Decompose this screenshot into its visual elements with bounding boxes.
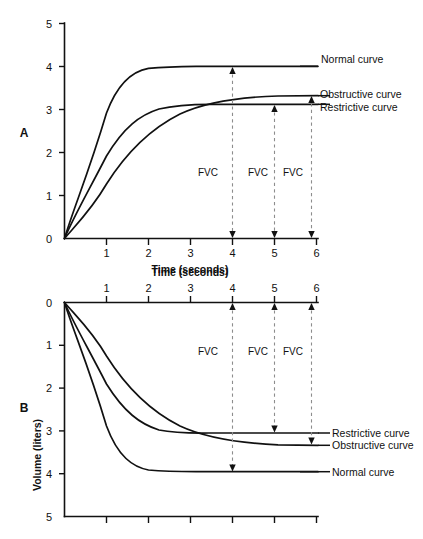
panel-a-obstructive-curve xyxy=(65,96,319,239)
panel-b-obstructive-label: Obstructive curve xyxy=(332,439,414,451)
panel-b-x-tick-4: 4 xyxy=(229,282,235,294)
arrow-down-icon xyxy=(308,231,314,238)
spirometry-figure: 5 4 3 2 1 0 1 2 3 4 5 6 Time (seconds) xyxy=(0,0,423,539)
panel-a-x-tick-2: 2 xyxy=(145,247,151,259)
panel-b-fvc-label-obstructive: FVC xyxy=(283,346,303,357)
panel-a-x-ticks xyxy=(107,239,317,246)
panel-b-obstructive-curve xyxy=(65,303,319,446)
panel-a-fvc-obstructive xyxy=(308,96,314,238)
panel-b-y-tick-3: 3 xyxy=(46,425,52,437)
panel-a-fvc-label-obstructive: FVC xyxy=(283,167,303,178)
panel-a-fvc-restrictive xyxy=(271,105,277,238)
panel-b-y-tick-4: 4 xyxy=(46,468,52,480)
panel-a-restrictive-label: Restrictive curve xyxy=(320,101,398,113)
panel-a-normal-curve xyxy=(65,66,319,238)
panel-b-y-ticks xyxy=(59,345,65,473)
panel-a-x-tick-4: 4 xyxy=(229,247,235,259)
panel-b-fvc-restrictive xyxy=(271,303,277,433)
panel-a-fvc-label-restrictive: FVC xyxy=(248,167,268,178)
panel-b-y-tick-5: 5 xyxy=(46,511,52,523)
panel-b: Time (seconds) 1 2 3 4 5 6 xyxy=(20,282,414,523)
arrow-up-icon xyxy=(308,303,314,310)
arrow-down-icon xyxy=(229,231,235,238)
panel-a-y-tick-5: 5 xyxy=(46,18,52,30)
arrow-down-icon xyxy=(271,231,277,238)
arrow-up-icon xyxy=(229,303,235,310)
panel-a: 5 4 3 2 1 0 1 2 3 4 5 6 Time (seconds) xyxy=(20,18,402,276)
panel-b-y-tick-1: 1 xyxy=(46,339,52,351)
panel-a-fvc-label-normal: FVC xyxy=(198,167,218,178)
panel-b-fvc-label-normal: FVC xyxy=(198,346,218,357)
panel-b-x-tick-1: 1 xyxy=(103,282,109,294)
panel-a-y-tick-1: 1 xyxy=(46,190,52,202)
panel-a-y-ticks xyxy=(59,24,65,196)
panel-b-y-tick-2: 2 xyxy=(46,382,52,394)
panel-b-fvc-label-restrictive: FVC xyxy=(248,346,268,357)
arrow-up-icon xyxy=(229,67,235,74)
panel-a-x-tick-5: 5 xyxy=(271,247,277,259)
panel-b-x-tick-5: 5 xyxy=(271,282,277,294)
panel-a-x-tick-3: 3 xyxy=(187,247,193,259)
panel-a-normal-label: Normal curve xyxy=(321,53,384,65)
arrow-down-icon xyxy=(308,438,314,445)
spirometry-svg: 5 4 3 2 1 0 1 2 3 4 5 6 Time (seconds) xyxy=(0,0,423,539)
panel-b-normal-label: Normal curve xyxy=(332,466,395,478)
panel-b-time-axis-title: Time (seconds) xyxy=(152,266,229,278)
panel-a-y-tick-3: 3 xyxy=(46,104,52,116)
arrow-down-icon xyxy=(229,465,235,472)
panel-a-fvc-normal xyxy=(229,67,235,238)
panel-b-y-tick-0: 0 xyxy=(46,297,52,309)
panel-a-y-tick-2: 2 xyxy=(46,147,52,159)
panel-b-x-tick-6: 6 xyxy=(313,282,319,294)
panel-a-y-tick-0: 0 xyxy=(46,233,52,245)
arrow-up-icon xyxy=(271,105,277,112)
panel-b-x-tick-2: 2 xyxy=(145,282,151,294)
panel-b-restrictive-label: Restrictive curve xyxy=(332,427,410,439)
panel-b-y-axis-title: Volume (liters) xyxy=(31,419,43,491)
panel-a-x-tick-6: 6 xyxy=(313,247,319,259)
panel-b-x-ticks xyxy=(107,296,317,303)
panel-a-y-tick-4: 4 xyxy=(46,61,52,73)
arrow-up-icon xyxy=(308,96,314,103)
panel-b-x-tick-3: 3 xyxy=(187,282,193,294)
arrow-down-icon xyxy=(271,426,277,433)
panel-b-letter: B xyxy=(20,401,29,415)
panel-a-obstructive-label: Obstructive curve xyxy=(320,88,402,100)
panel-b-bottom-ticks xyxy=(107,517,317,524)
panel-b-normal-curve xyxy=(65,303,319,472)
panel-a-letter: A xyxy=(20,126,29,140)
arrow-up-icon xyxy=(271,303,277,310)
panel-b-fvc-obstructive xyxy=(308,303,314,445)
panel-b-fvc-normal xyxy=(229,303,235,472)
panel-a-x-tick-1: 1 xyxy=(103,247,109,259)
